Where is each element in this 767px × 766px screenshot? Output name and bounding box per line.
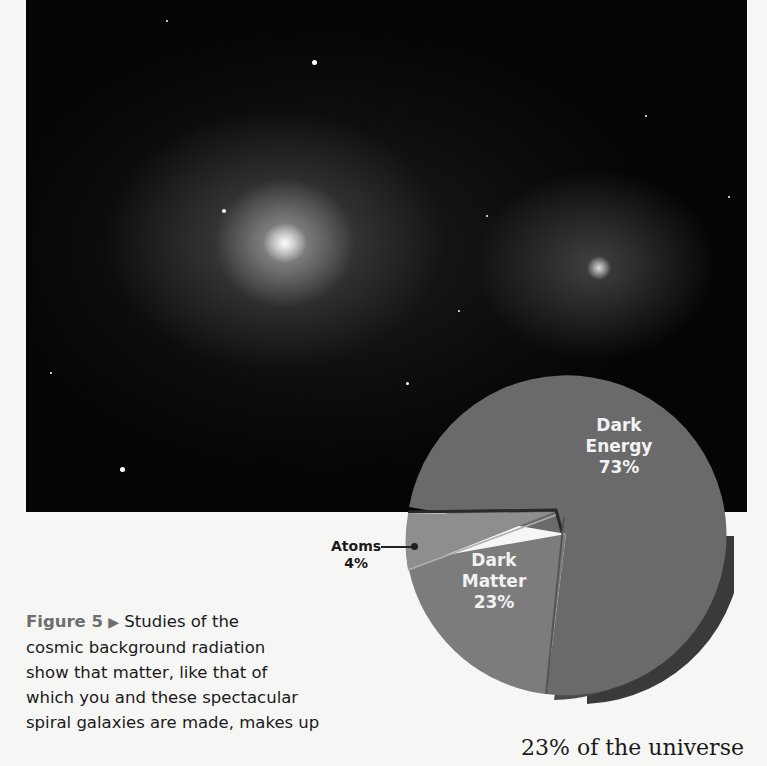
universe-composition-pie-chart: Dark Energy 73% Dark Matter 23% — [404, 372, 734, 708]
dark-matter-label-line1: Dark — [449, 550, 539, 571]
caption-line-4: which you and these spectacular — [26, 688, 298, 707]
arrow-right-icon: ▶ — [108, 614, 119, 630]
star — [486, 215, 488, 217]
star — [728, 196, 730, 198]
caption-line-3: show that matter, like that of — [26, 663, 267, 682]
atoms-label-name: Atoms — [331, 538, 381, 555]
atoms-leader-dot — [411, 543, 418, 550]
atoms-label: Atoms 4% — [331, 538, 381, 572]
atoms-leader-line — [381, 546, 413, 548]
star — [312, 60, 317, 65]
star — [222, 209, 226, 213]
dark-energy-percent: 73% — [574, 457, 664, 478]
star — [645, 115, 647, 117]
body-text: 23% of the universe — [521, 735, 744, 760]
figure-caption: Figure 5 ▶ Studies of the cosmic backgro… — [26, 609, 426, 735]
dark-matter-percent: 23% — [449, 592, 539, 613]
figure-number: Figure 5 — [26, 612, 103, 631]
star — [120, 467, 125, 472]
dark-energy-label-line1: Dark — [574, 415, 664, 436]
dark-matter-label: Dark Matter 23% — [449, 550, 539, 613]
dark-energy-label: Dark Energy 73% — [574, 415, 664, 478]
caption-line-1: Studies of the — [124, 612, 239, 631]
caption-line-5: spiral galaxies are made, makes up — [26, 713, 319, 732]
star — [458, 310, 460, 312]
caption-line-2: cosmic background radiation — [26, 638, 265, 657]
pie-graphic — [404, 372, 734, 708]
star — [50, 372, 52, 374]
atoms-percent: 4% — [331, 555, 381, 572]
dark-matter-label-line2: Matter — [449, 571, 539, 592]
star — [166, 20, 168, 22]
dark-energy-label-line2: Energy — [574, 436, 664, 457]
